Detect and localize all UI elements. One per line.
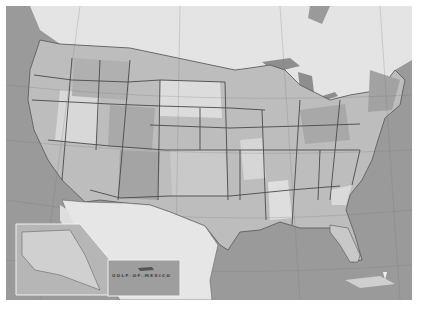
state-new-mexico (118, 150, 160, 200)
state-ohio-pa (300, 104, 350, 144)
us-map[interactable] (6, 6, 412, 300)
state-idaho-montana (72, 58, 130, 100)
state-illinois (240, 138, 266, 180)
state-dakotas (160, 80, 222, 118)
hawaii-inset[interactable] (108, 260, 180, 296)
state-colorado-utah (108, 105, 155, 150)
gulf-of-mexico-label: GULF OF MEXICO (112, 273, 171, 278)
map-frame: GULF OF MEXICO (6, 6, 412, 300)
state-oklahoma-texas (170, 150, 228, 196)
cuba (345, 276, 395, 288)
state-nevada (55, 90, 100, 145)
state-alabama (268, 180, 292, 220)
